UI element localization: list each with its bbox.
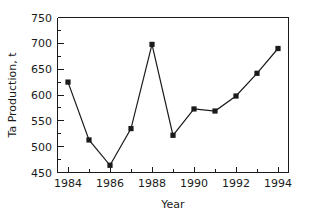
x-tick-label: 1984 — [54, 177, 82, 190]
y-axis-title: Ta Production, t — [6, 52, 19, 139]
data-point — [191, 106, 196, 111]
line-chart: 750 700 650 600 550 500 450 1984 1986 19… — [0, 0, 311, 219]
data-point — [86, 137, 91, 142]
data-point — [212, 108, 217, 113]
data-point — [254, 71, 259, 76]
y-tick-label: 500 — [31, 141, 52, 154]
x-tick-label: 1990 — [180, 177, 208, 190]
data-point — [233, 93, 238, 98]
data-point — [149, 42, 154, 47]
x-tick-label: 1994 — [264, 177, 292, 190]
data-point — [107, 163, 112, 168]
data-point — [65, 79, 70, 84]
x-tick-label: 1988 — [138, 177, 166, 190]
y-tick-label: 450 — [31, 167, 52, 180]
y-tick-label: 600 — [31, 89, 52, 102]
data-point — [170, 133, 175, 138]
data-point — [275, 46, 280, 51]
x-axis-title: Year — [160, 198, 185, 211]
y-tick-label: 650 — [31, 63, 52, 76]
x-tick-label: 1992 — [222, 177, 250, 190]
y-tick-label: 750 — [31, 12, 52, 25]
x-tick-label: 1986 — [96, 177, 124, 190]
y-tick-label: 550 — [31, 115, 52, 128]
chart-container: 750 700 650 600 550 500 450 1984 1986 19… — [0, 0, 311, 219]
data-point — [128, 126, 133, 131]
y-tick-label: 700 — [31, 37, 52, 50]
